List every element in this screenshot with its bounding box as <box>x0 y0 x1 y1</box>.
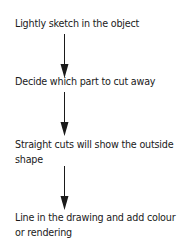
step-1-sketch: Lightly sketch in the object <box>15 16 187 31</box>
step-2-decide-cut: Decide which part to cut away <box>15 74 187 89</box>
arrow-down-icon <box>60 92 69 136</box>
arrow-down-icon <box>60 34 69 78</box>
arrow-down-icon <box>60 166 69 210</box>
step-3-straight-cuts: Straight cuts will show the outside shap… <box>15 137 187 167</box>
step-4-line-in-and-colour: Line in the drawing and add colour or re… <box>15 210 187 240</box>
